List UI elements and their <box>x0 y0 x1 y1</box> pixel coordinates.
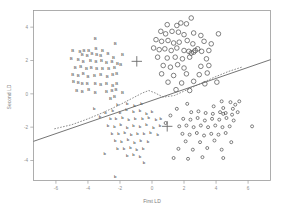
data-point <box>175 46 180 51</box>
data-point <box>182 66 187 71</box>
data-point: B <box>105 81 108 86</box>
data-point <box>191 31 196 36</box>
data-point: B <box>86 81 89 86</box>
data-point: b <box>120 122 123 127</box>
data-point: b <box>145 122 148 127</box>
data-point <box>215 80 220 85</box>
data-point <box>189 16 194 21</box>
data-point <box>179 81 184 86</box>
data-point <box>219 111 222 114</box>
data-point: B <box>94 81 97 86</box>
data-point <box>184 140 187 143</box>
data-point: B <box>90 51 93 56</box>
data-point: B <box>71 72 74 77</box>
data-point <box>201 156 204 159</box>
y-axis-title: Second LD <box>6 84 12 109</box>
x-tick-label: 0 <box>151 186 154 191</box>
data-point <box>175 62 180 67</box>
data-point <box>214 124 217 127</box>
data-point: b <box>134 116 137 121</box>
data-point: b <box>140 138 143 143</box>
data-point <box>191 79 196 84</box>
data-point <box>185 38 190 43</box>
data-point <box>199 124 202 127</box>
data-point <box>228 125 231 128</box>
data-point <box>210 132 213 135</box>
y-axis: 420-2-4 <box>24 25 34 163</box>
data-point: B <box>71 48 74 53</box>
data-point: B <box>121 52 124 57</box>
data-point <box>204 112 207 115</box>
data-point: B <box>106 51 109 56</box>
data-point <box>172 157 175 160</box>
data-point: B <box>74 65 77 70</box>
data-point <box>170 29 175 34</box>
data-point: b <box>143 131 146 136</box>
data-point: b <box>147 139 150 144</box>
data-point <box>182 32 187 37</box>
data-point <box>192 126 195 129</box>
data-point: B <box>107 66 110 71</box>
data-point: B <box>93 73 96 78</box>
data-point <box>180 57 185 62</box>
data-point: b <box>115 116 118 121</box>
data-point <box>218 118 221 121</box>
data-point <box>157 47 162 52</box>
data-point <box>231 107 234 110</box>
data-point: b <box>111 131 114 136</box>
centroid-marker <box>132 56 142 66</box>
data-point <box>212 105 215 108</box>
data-point: B <box>113 94 116 99</box>
data-point: B <box>77 57 80 62</box>
data-point: b <box>123 146 126 151</box>
data-point: B <box>79 64 82 69</box>
data-point: B <box>94 46 97 51</box>
y-tick-label: -4 <box>24 158 29 163</box>
data-point: b <box>139 154 142 159</box>
data-point: B <box>70 56 73 61</box>
data-point <box>199 49 204 54</box>
data-point: B <box>81 52 84 57</box>
data-point <box>211 117 214 120</box>
data-point <box>209 42 214 47</box>
data-point <box>203 134 206 137</box>
data-point <box>176 30 181 35</box>
data-point <box>197 72 202 77</box>
data-point <box>220 148 223 151</box>
data-point <box>222 107 225 110</box>
data-point <box>189 118 192 121</box>
data-point: B <box>94 59 97 64</box>
data-point <box>171 41 176 46</box>
data-point: B <box>110 59 113 64</box>
data-point <box>221 126 224 129</box>
data-point <box>154 37 159 42</box>
data-point <box>187 55 192 60</box>
data-point: b <box>107 123 110 128</box>
x-tick-label: 6 <box>247 186 250 191</box>
data-point: B <box>115 87 118 92</box>
data-point <box>191 148 194 151</box>
data-point <box>164 122 167 125</box>
x-axis-title: First LD <box>143 198 161 204</box>
data-point: B <box>82 71 85 76</box>
data-point: B <box>99 82 102 87</box>
x-tick-label: 4 <box>215 186 218 191</box>
data-point: b <box>121 115 124 120</box>
data-point: b <box>127 137 130 142</box>
data-point: b <box>136 147 139 152</box>
data-point <box>159 29 164 34</box>
data-point: B <box>105 60 108 65</box>
data-point: b <box>128 117 131 122</box>
data-point: b <box>139 124 142 129</box>
data-point <box>199 64 204 69</box>
data-point: B <box>94 90 97 95</box>
data-point <box>188 133 191 136</box>
data-point <box>251 125 254 128</box>
x-tick-label: -4 <box>86 186 91 191</box>
data-point <box>229 101 232 104</box>
data-point <box>222 157 225 160</box>
data-point: b <box>117 131 120 136</box>
data-point <box>224 132 227 135</box>
y-tick-label: 4 <box>25 25 28 30</box>
data-point <box>177 40 182 45</box>
